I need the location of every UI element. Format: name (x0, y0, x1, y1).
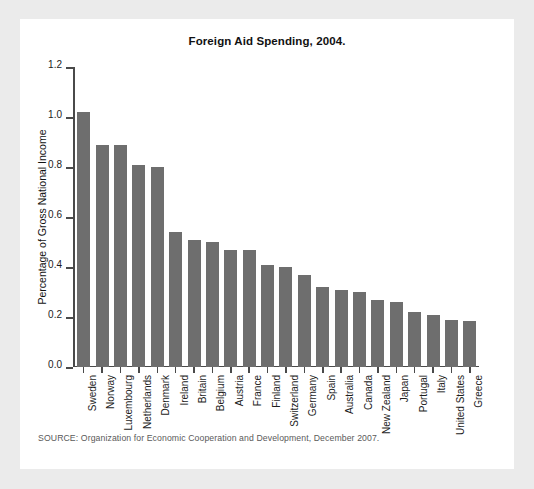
bar-slot (148, 67, 166, 367)
x-axis-label-slot: Norway (93, 375, 111, 461)
plot-area: 0.00.20.40.60.81.01.2 SwedenNorwayLuxemb… (73, 67, 479, 367)
bar (188, 240, 201, 368)
y-axis-tick-label: 0.6 (48, 209, 62, 220)
x-axis-tick (175, 367, 177, 373)
x-axis-label-slot: Ireland (166, 375, 184, 461)
bar-slot (75, 67, 93, 367)
x-axis-tick-slot (387, 367, 405, 373)
x-axis-label-slot: Austria (222, 375, 240, 461)
x-axis-tick-slot (222, 367, 240, 373)
y-axis-tick: 0.8 (66, 167, 73, 169)
bar (151, 167, 164, 367)
x-axis-tick (377, 367, 379, 373)
x-axis-tick-slot (258, 367, 276, 373)
y-axis-tick-label: 0.0 (48, 359, 62, 370)
bar (408, 312, 421, 367)
x-axis-label-slot: United States (442, 375, 460, 461)
x-axis-tick-slot (93, 367, 111, 373)
x-axis-label-slot: Portugal (406, 375, 424, 461)
x-axis-label-slot: Spain (314, 375, 332, 461)
y-axis-tick-label: 0.4 (48, 259, 62, 270)
y-axis-tick-label: 1.0 (48, 109, 62, 120)
x-axis-tick-slot (295, 367, 313, 373)
x-axis-tick (120, 367, 122, 373)
bar-series (75, 67, 480, 367)
bar (316, 287, 329, 367)
x-axis-label-slot: Luxembourg (111, 375, 129, 461)
x-axis-tick-slot (166, 367, 184, 373)
x-axis-tick-slot (442, 367, 460, 373)
x-axis-tick-slot (240, 367, 258, 373)
bar (371, 300, 384, 368)
x-axis-label-slot: Greece (461, 375, 479, 461)
x-axis-tick (212, 367, 214, 373)
x-axis-tick-slot (424, 367, 442, 373)
x-axis-label-slot: Japan (387, 375, 405, 461)
bar-slot (461, 67, 479, 367)
x-axis-label-slot: Canada (350, 375, 368, 461)
bar (427, 315, 440, 368)
bar-slot (93, 67, 111, 367)
x-axis-labels: SwedenNorwayLuxembourgNetherlandsDenmark… (75, 375, 480, 461)
bar-slot (350, 67, 368, 367)
y-axis-tick: 1.0 (66, 117, 73, 119)
bar-slot (442, 67, 460, 367)
bar (114, 145, 127, 368)
x-axis-label-slot: Britain (185, 375, 203, 461)
x-axis-tick-slot (111, 367, 129, 373)
x-axis-tick (230, 367, 232, 373)
x-axis-tick (101, 367, 103, 373)
x-axis-tick-slot (406, 367, 424, 373)
x-axis-tick-slot (277, 367, 295, 373)
x-axis-tick-slot (350, 367, 368, 373)
x-axis-tick-slot (185, 367, 203, 373)
x-axis-tick-slot (369, 367, 387, 373)
bar-slot (277, 67, 295, 367)
y-axis-tick: 0.0 (66, 367, 73, 369)
bar (298, 275, 311, 368)
bar (390, 302, 403, 367)
source-note: SOURCE: Organization for Economic Cooper… (38, 433, 379, 443)
x-axis-tick (157, 367, 159, 373)
bar-slot (314, 67, 332, 367)
x-axis-tick (451, 367, 453, 373)
bar (335, 290, 348, 368)
y-axis-tick: 0.6 (66, 217, 73, 219)
y-axis-title-label: Percentage of Gross National Income (36, 129, 48, 304)
x-axis-tick (83, 367, 85, 373)
y-axis-tick: 0.2 (66, 317, 73, 319)
bar-slot (424, 67, 442, 367)
bar-slot (222, 67, 240, 367)
y-axis-tick-label: 0.8 (48, 159, 62, 170)
chart-title: Foreign Aid Spending, 2004. (20, 35, 514, 47)
bar (445, 320, 458, 368)
bar (77, 112, 90, 367)
x-axis-ticks (75, 367, 480, 373)
x-axis-label-slot: Denmark (148, 375, 166, 461)
bar (132, 165, 145, 368)
bar (169, 232, 182, 367)
figure-card: Foreign Aid Spending, 2004. Percentage o… (20, 19, 514, 469)
x-axis-tick (396, 367, 398, 373)
x-axis-tick (193, 367, 195, 373)
x-axis-tick (340, 367, 342, 373)
x-axis-tick-slot (314, 367, 332, 373)
bar-slot (387, 67, 405, 367)
x-axis-tick (285, 367, 287, 373)
x-axis-label-slot: Australia (332, 375, 350, 461)
x-axis-tick-slot (203, 367, 221, 373)
x-axis-tick (138, 367, 140, 373)
bar-slot (406, 67, 424, 367)
x-axis-tick (414, 367, 416, 373)
bar-slot (258, 67, 276, 367)
bar-slot (185, 67, 203, 367)
bar (206, 242, 219, 367)
x-axis-label-slot: Germany (295, 375, 313, 461)
x-axis-label-slot: Belgium (203, 375, 221, 461)
bar-slot (130, 67, 148, 367)
x-axis-label-slot: Netherlands (130, 375, 148, 461)
bar-slot (295, 67, 313, 367)
bar (243, 250, 256, 368)
x-axis-label-slot: Switzerland (277, 375, 295, 461)
bar-slot (111, 67, 129, 367)
